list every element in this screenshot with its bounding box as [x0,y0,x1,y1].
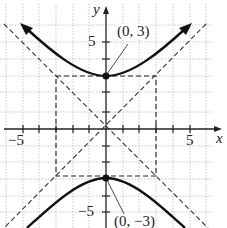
vertex-top-point [103,73,110,80]
y-axis-arrow-icon [103,6,109,14]
tick-label-y-neg5: −5 [78,204,94,219]
y-axis-label: y [93,2,100,17]
tick-label-y-pos5: 5 [88,34,96,49]
vertex-bottom-label: (0, −3) [114,214,155,228]
hyperbola-graph [0,0,227,228]
tick-label-x-neg5: −5 [8,133,24,148]
vertex-top-label: (0, 3) [117,24,150,39]
x-axis-label: x [216,131,223,146]
vertex-bottom-leader [107,180,124,214]
vertex-top-leader [107,44,128,74]
tick-label-x-pos5: 5 [186,133,194,148]
vertex-bottom-point [103,175,110,182]
